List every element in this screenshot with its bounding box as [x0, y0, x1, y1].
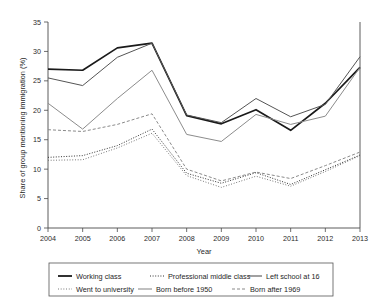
- y-tick-label: 10: [33, 165, 41, 174]
- y-tick-label: 5: [37, 194, 41, 203]
- series-line: [48, 114, 360, 181]
- y-tick-label: 20: [33, 106, 41, 115]
- x-tick-label: 2013: [352, 234, 368, 243]
- x-tick-label: 2006: [109, 234, 125, 243]
- y-tick-label: 0: [37, 224, 41, 233]
- y-tick-label: 35: [33, 18, 41, 27]
- x-tick-label: 2008: [179, 234, 195, 243]
- line-chart: Share of group mentioning immigration (%…: [0, 0, 375, 308]
- series-lines: [48, 43, 360, 187]
- x-axis-title: Year: [197, 247, 212, 256]
- legend-label: Professional middle class: [168, 272, 251, 281]
- legend-label: Working class: [76, 272, 122, 281]
- series-line: [48, 43, 360, 130]
- x-tick-label: 2007: [144, 234, 160, 243]
- x-axis-ticks: 2004200520062007200820092010201120122013: [40, 228, 368, 243]
- chart-container: Share of group mentioning immigration (%…: [0, 0, 375, 308]
- legend-label: Went to university: [76, 285, 134, 294]
- series-line: [48, 43, 360, 122]
- y-axis-title: Share of group mentioning immigration (%…: [18, 58, 27, 199]
- y-axis-ticks: 05101520253035: [33, 18, 48, 233]
- series-line: [48, 67, 360, 141]
- legend-label: Born before 1950: [156, 285, 212, 294]
- y-axis-title-group: Share of group mentioning immigration (%…: [18, 58, 27, 199]
- y-tick-label: 15: [33, 135, 41, 144]
- x-tick-label: 2005: [75, 234, 91, 243]
- series-line: [48, 133, 360, 187]
- x-tick-label: 2004: [40, 234, 56, 243]
- x-tick-label: 2011: [283, 234, 298, 243]
- x-tick-label: 2009: [213, 234, 229, 243]
- y-tick-label: 30: [33, 47, 41, 56]
- legend-label: Left school at 16: [266, 272, 320, 281]
- x-tick-label: 2010: [248, 234, 264, 243]
- y-tick-label: 25: [33, 76, 41, 85]
- legend-label: Born after 1969: [250, 285, 300, 294]
- x-tick-label: 2012: [317, 234, 333, 243]
